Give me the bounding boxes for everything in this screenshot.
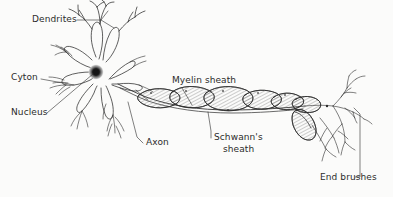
neuron-diagram-figure: Dendrites Cyton Nucleus Axon Myelin shea… — [0, 0, 393, 197]
dendrites-left — [49, 45, 72, 95]
label-cyton: Cyton — [11, 72, 38, 83]
label-schwanns-line1: Schwann's — [214, 132, 263, 142]
label-myelin-sheath: Myelin sheath — [172, 75, 236, 86]
label-axon: Axon — [146, 137, 169, 148]
label-schwanns-sheath: Schwann's sheath — [214, 132, 272, 155]
label-schwanns-line2: sheath — [214, 144, 254, 156]
myelin-segment-drooping — [292, 110, 316, 141]
nucleus-shape — [88, 64, 104, 80]
end-brushes-arbor — [305, 70, 372, 161]
label-nucleus: Nucleus — [11, 107, 48, 118]
dendrites-upper — [69, 0, 145, 31]
dendrites-lower — [71, 104, 124, 138]
neuron-illustration — [0, 0, 393, 197]
label-end-brushes: End brushes — [320, 172, 377, 183]
label-dendrites: Dendrites — [32, 14, 77, 25]
